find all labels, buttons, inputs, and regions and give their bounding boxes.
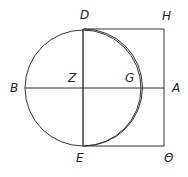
diagram-figure xyxy=(0,0,188,177)
label-theta: Θ xyxy=(164,152,173,164)
label-z: Z xyxy=(68,72,76,84)
label-h: H xyxy=(162,10,171,22)
label-a: A xyxy=(172,82,180,94)
label-e: E xyxy=(76,152,84,164)
label-g: G xyxy=(125,72,134,84)
label-b: B xyxy=(10,82,18,94)
label-d: D xyxy=(80,9,89,21)
geometry-diagram: D H Z G B A E Θ xyxy=(0,0,188,177)
